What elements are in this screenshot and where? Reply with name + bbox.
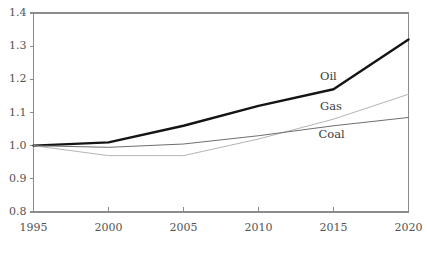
series-label-gas: Gas	[320, 101, 342, 113]
y-tick-label-2: 1.0	[0, 140, 27, 151]
x-tick-label-2: 2005	[159, 222, 209, 233]
series-label-coal: Coal	[319, 129, 345, 141]
y-tick-label-3: 1.1	[0, 107, 27, 118]
x-tick-label-5: 2020	[384, 222, 427, 233]
y-tick-label-1: 0.9	[0, 173, 27, 184]
series-label-oil: Oil	[320, 71, 337, 83]
y-tick-label-0: 0.8	[0, 206, 27, 217]
axis-ticks	[30, 13, 409, 212]
x-tick-label-4: 2015	[309, 222, 359, 233]
y-tick-label-5: 1.3	[0, 40, 27, 51]
y-tick-label-4: 1.2	[0, 73, 27, 84]
x-tick-label-0: 1995	[9, 222, 59, 233]
series-line-oil	[34, 40, 409, 146]
y-tick-label-6: 1.4	[0, 7, 27, 18]
x-tick-label-3: 2010	[234, 222, 284, 233]
x-tick-label-1: 2000	[84, 222, 134, 233]
series-lines	[34, 40, 409, 156]
